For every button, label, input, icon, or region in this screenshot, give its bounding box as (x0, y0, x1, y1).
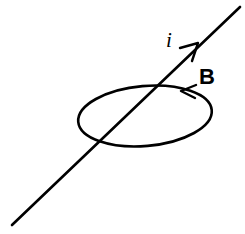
magnetic-field-label: B (199, 66, 215, 88)
physics-diagram-figure: i B (0, 0, 245, 234)
magnetic-field-loop (76, 80, 215, 151)
diagram-canvas (0, 0, 245, 234)
current-arrowhead (180, 43, 198, 61)
current-label: i (166, 30, 172, 51)
current-wire (12, 7, 240, 225)
